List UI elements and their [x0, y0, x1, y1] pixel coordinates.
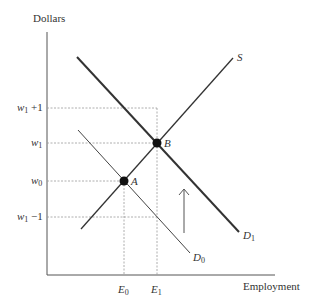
supply-label: S — [237, 51, 243, 63]
point-b-label: B — [164, 137, 171, 149]
x-axis-label: Employment — [243, 280, 300, 292]
guide-lines — [47, 108, 157, 275]
shift-arrow-icon — [179, 189, 189, 233]
demand-curve-d0 — [78, 130, 190, 253]
point-a-label: A — [130, 175, 138, 187]
tick-e0: E0 — [117, 283, 129, 297]
tick-w1-minus-1: w1 −1 — [17, 210, 43, 224]
tick-w1-plus-1: w1 +1 — [17, 101, 43, 115]
labor-market-chart: Dollars Employment S D1 D0 A B w1 +1 w1 … — [0, 0, 309, 302]
equilibrium-point-b — [153, 139, 162, 148]
tick-w1: w1 — [31, 136, 42, 150]
demand-d0-label: D0 — [192, 251, 205, 265]
equilibrium-point-a — [120, 177, 129, 186]
tick-w0: w0 — [31, 174, 42, 188]
y-axis-label: Dollars — [33, 12, 65, 24]
tick-e1: E1 — [150, 283, 162, 297]
demand-d1-label: D1 — [242, 229, 255, 243]
